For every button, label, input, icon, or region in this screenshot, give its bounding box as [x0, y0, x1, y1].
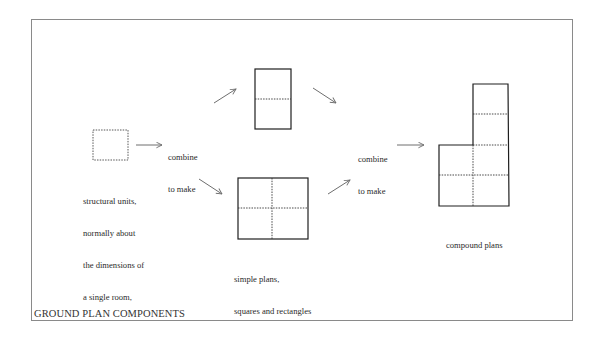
label-line: simple plans, — [234, 274, 311, 285]
compound-plans-label: compound plans — [446, 219, 503, 261]
up-right-arrow-icon — [214, 89, 236, 103]
up-right-arrow-icon — [328, 180, 350, 194]
label-line: normally about — [83, 228, 144, 239]
compound-plan-shape — [439, 84, 509, 206]
structural-units-label: structural units, normally about the dim… — [83, 175, 144, 313]
structural-unit-square — [93, 130, 128, 160]
combine-label-1: combine to make — [168, 131, 198, 205]
down-right-arrow-icon — [313, 88, 336, 103]
four-unit-square — [238, 178, 308, 239]
to-make-text: to make — [168, 184, 198, 195]
figure-caption: GROUND PLAN COMPONENTS — [34, 308, 185, 319]
label-line: a single room, — [83, 292, 144, 303]
label-line: structural units, — [83, 196, 144, 207]
double-unit-rectangle — [255, 69, 291, 129]
down-right-arrow-icon — [199, 179, 222, 194]
label-line: the dimensions of — [83, 260, 144, 271]
combine-text: combine — [358, 154, 388, 165]
combine-text: combine — [168, 152, 198, 163]
label-line: compound plans — [446, 240, 503, 251]
combine-label-2: combine to make — [358, 133, 388, 207]
label-line: squares and rectangles — [234, 306, 311, 317]
simple-plans-label: simple plans, squares and rectangles — [234, 253, 311, 327]
to-make-text: to make — [358, 186, 388, 197]
